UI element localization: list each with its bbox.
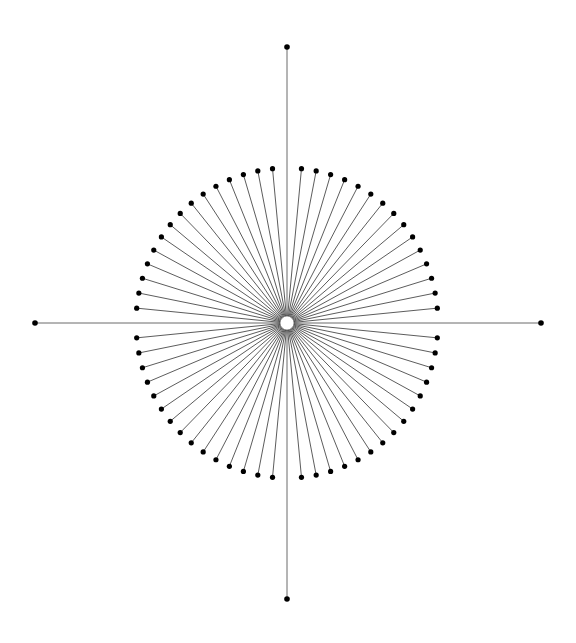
ray-line	[292, 328, 394, 433]
ring-dot	[241, 172, 246, 177]
ring-dot	[401, 222, 406, 227]
ring-dot	[355, 457, 360, 462]
axis-endpoint-left	[32, 320, 38, 326]
ring-dot	[140, 365, 145, 370]
ring-dot	[391, 211, 396, 216]
ring-dot	[435, 306, 440, 311]
ring-dot	[433, 350, 438, 355]
ring-dot	[418, 393, 423, 398]
ring-dot	[270, 166, 275, 171]
ring-dot	[424, 261, 429, 266]
ring-dot	[299, 475, 304, 480]
ring-dot	[201, 191, 206, 196]
ring-dot	[136, 350, 141, 355]
ring-dot	[314, 472, 319, 477]
ring-dot	[391, 430, 396, 435]
ring-dot	[241, 469, 246, 474]
starburst-diagram	[0, 0, 576, 643]
ring-dot	[151, 393, 156, 398]
ring-dot	[178, 430, 183, 435]
ray-line	[288, 169, 302, 316]
ring-dot	[227, 464, 232, 469]
ring-dot	[342, 177, 347, 182]
center-hub	[280, 316, 294, 330]
ring-dot	[201, 449, 206, 454]
axis-endpoint-bottom	[284, 596, 290, 602]
ring-dot	[299, 166, 304, 171]
ring-dot	[270, 475, 275, 480]
ring-dot	[380, 440, 385, 445]
ring-dot	[433, 290, 438, 295]
ring-dot	[380, 201, 385, 206]
ray-line	[294, 308, 437, 322]
ring-dot	[424, 380, 429, 385]
ray-line	[273, 169, 287, 316]
ring-dot	[145, 380, 150, 385]
ring-dot	[255, 472, 260, 477]
ring-dot	[213, 457, 218, 462]
ring-dot	[136, 290, 141, 295]
ring-dot	[227, 177, 232, 182]
ring-dot	[189, 440, 194, 445]
axis-endpoint-top	[284, 44, 290, 50]
ring-dot	[429, 276, 434, 281]
ring-dot	[189, 201, 194, 206]
ring-dot	[178, 211, 183, 216]
ring-dot	[401, 419, 406, 424]
radial-diagram	[0, 0, 576, 643]
ray-line	[180, 213, 282, 318]
ring-dot	[159, 234, 164, 239]
ring-dot	[314, 168, 319, 173]
ring-dot	[159, 406, 164, 411]
ring-dot	[429, 365, 434, 370]
ring-dot	[255, 168, 260, 173]
ray-line	[294, 324, 437, 338]
ray-line	[137, 324, 280, 338]
ring-dot	[134, 306, 139, 311]
ring-dot	[134, 335, 139, 340]
ring-dot	[410, 234, 415, 239]
ray-line	[288, 330, 302, 477]
ring-dot	[342, 464, 347, 469]
ray-line	[292, 213, 394, 318]
ring-dot	[140, 276, 145, 281]
ray-line	[180, 328, 282, 433]
ring-dot	[410, 406, 415, 411]
ring-dot	[368, 449, 373, 454]
ring-dot	[328, 172, 333, 177]
axis-endpoint-right	[538, 320, 544, 326]
ring-dot	[145, 261, 150, 266]
ray-line	[273, 330, 287, 477]
ring-dot	[355, 184, 360, 189]
ring-dot	[168, 419, 173, 424]
ring-dot	[418, 247, 423, 252]
ring-dot	[168, 222, 173, 227]
ring-dot	[435, 335, 440, 340]
ring-dot	[328, 469, 333, 474]
ray-line	[137, 308, 280, 322]
ring-dot	[368, 191, 373, 196]
ring-dot	[151, 247, 156, 252]
ring-dot	[213, 184, 218, 189]
